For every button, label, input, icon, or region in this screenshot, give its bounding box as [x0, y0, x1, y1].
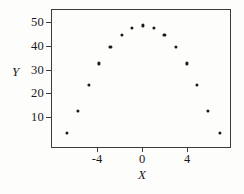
data-point	[163, 33, 166, 36]
plot-frame	[51, 9, 231, 148]
data-point	[153, 26, 156, 29]
data-point	[130, 26, 133, 29]
data-point	[98, 62, 101, 65]
x-axis-title: X	[138, 168, 146, 181]
y-axis-tick-label: 50	[0, 16, 44, 29]
scatter-plot-figure: 1020304050 -404 Y X	[0, 0, 244, 194]
data-point	[76, 109, 79, 112]
x-axis-tick-label: 4	[184, 153, 190, 166]
y-axis-title: Y	[12, 65, 19, 78]
y-axis-tick-label: 40	[0, 40, 44, 53]
data-point	[120, 33, 123, 36]
data-point	[185, 62, 188, 65]
y-axis-tick-label: 20	[0, 87, 44, 100]
x-axis-tick-label: 0	[139, 153, 145, 166]
data-point	[65, 131, 68, 134]
plot-area	[52, 10, 230, 147]
data-point	[195, 83, 198, 86]
data-point	[174, 45, 177, 48]
data-point	[109, 45, 112, 48]
data-point	[87, 83, 90, 86]
data-point	[207, 109, 210, 112]
y-axis-tick-label: 30	[0, 64, 44, 77]
x-axis-tick-label: -4	[92, 153, 102, 166]
data-point	[141, 24, 144, 27]
y-axis-tick-label: 10	[0, 111, 44, 124]
data-point	[218, 131, 221, 134]
